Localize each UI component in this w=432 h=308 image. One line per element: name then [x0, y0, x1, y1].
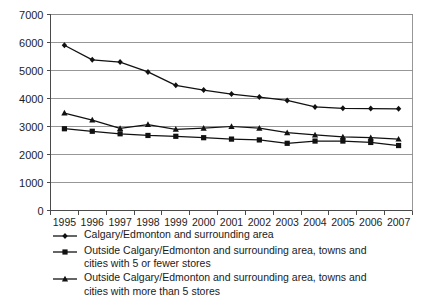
data-point-2-1	[90, 129, 95, 134]
line-chart: 0100020003000400050006000700019951996199…	[0, 0, 432, 308]
x-tick-label: 2003	[276, 216, 300, 228]
x-tick-label: 1996	[81, 216, 105, 228]
x-tick-label: 2004	[303, 216, 327, 228]
y-tick-label: 3000	[19, 121, 43, 133]
x-tick-label: 2007	[387, 216, 411, 228]
data-point-1-12	[396, 106, 401, 112]
y-tick-label: 5000	[19, 65, 43, 77]
data-point-2-7	[257, 137, 262, 142]
y-tick-label: 1000	[19, 177, 43, 189]
x-tick-label: 1998	[136, 216, 160, 228]
legend-entry-2: Outside Calgary/Edmonton and surrounding…	[52, 244, 428, 270]
data-point-1-7	[257, 94, 262, 100]
legend-marker-square-icon	[52, 245, 78, 259]
data-point-1-3	[145, 69, 150, 75]
y-tick-label: 7000	[19, 9, 43, 21]
chart-legend: Calgary/Edmonton and surrounding areaOut…	[52, 228, 428, 299]
x-tick-label: 2001	[220, 216, 244, 228]
data-point-legend-2	[62, 249, 67, 254]
series-1	[62, 42, 402, 112]
data-point-2-2	[118, 131, 123, 136]
legend-marker-triangle-icon	[52, 272, 78, 286]
x-tick-label: 2006	[359, 216, 383, 228]
x-tick-label: 2000	[192, 216, 216, 228]
data-point-2-11	[368, 140, 373, 145]
y-tick-label: 2000	[19, 149, 43, 161]
legend-entry-3: Outside Calgary/Edmonton and surrounding…	[52, 271, 428, 297]
y-tick-label: 0	[37, 205, 43, 217]
y-tick-label: 6000	[19, 37, 43, 49]
data-point-2-6	[229, 137, 234, 142]
data-point-1-9	[312, 104, 317, 110]
legend-entry-1: Calgary/Edmonton and surrounding area	[52, 228, 428, 243]
data-point-2-9	[312, 138, 317, 143]
data-point-2-8	[285, 141, 290, 146]
data-point-legend-1	[62, 233, 67, 239]
data-point-1-6	[229, 91, 234, 97]
legend-marker-diamond-icon	[52, 229, 78, 243]
data-point-2-3	[145, 133, 150, 138]
data-point-3-0	[61, 110, 67, 116]
data-point-1-0	[62, 42, 67, 48]
x-tick-label: 1997	[108, 216, 132, 228]
series-line-1	[64, 45, 398, 109]
legend-label-3: Outside Calgary/Edmonton and surrounding…	[84, 271, 367, 297]
data-point-1-11	[368, 106, 373, 112]
y-tick-label: 4000	[19, 93, 43, 105]
data-point-1-2	[117, 59, 122, 65]
data-point-1-4	[173, 82, 178, 88]
x-tick-label: 1995	[53, 216, 77, 228]
data-point-2-12	[396, 143, 401, 148]
data-point-1-10	[340, 105, 345, 111]
x-tick-label: 1999	[164, 216, 188, 228]
data-point-1-1	[90, 57, 95, 63]
data-point-3-3	[145, 121, 151, 127]
legend-label-1: Calgary/Edmonton and surrounding area	[84, 228, 274, 241]
x-tick-label: 2002	[248, 216, 272, 228]
x-tick-label: 2005	[331, 216, 355, 228]
data-point-1-5	[201, 87, 206, 93]
data-point-2-4	[173, 134, 178, 139]
legend-label-2: Outside Calgary/Edmonton and surrounding…	[84, 244, 367, 270]
data-point-2-0	[62, 126, 67, 131]
data-point-2-5	[201, 135, 206, 140]
